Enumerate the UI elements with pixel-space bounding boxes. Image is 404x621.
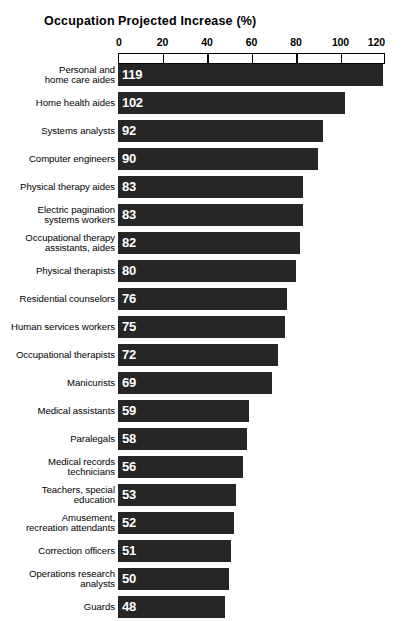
x-axis-tick-mark (341, 54, 342, 63)
category-label: Teachers, specialeducation (0, 484, 115, 506)
category-label: Electric paginationsystems workers (0, 204, 115, 226)
category-label: Systems analysts (0, 120, 115, 142)
bar: 90 (118, 148, 318, 170)
x-axis-tick-label: 120 (368, 36, 385, 48)
bar-value-label: 69 (122, 375, 136, 391)
category-label-line: technicians (68, 467, 115, 478)
x-axis-tick-label: 40 (201, 36, 212, 48)
bar-value-label: 51 (122, 543, 136, 559)
bar-row: 48 (118, 596, 385, 618)
bar-row: 76 (118, 288, 385, 310)
category-label: Occupational therapyassistants, aides (0, 232, 115, 254)
category-label: Guards (0, 596, 115, 618)
x-axis-tick-mark (252, 54, 253, 63)
bar-value-label: 90 (122, 151, 136, 167)
bar-row: 83 (118, 176, 385, 198)
category-label-line: systems workers (44, 215, 115, 226)
category-label: Physical therapists (0, 260, 115, 282)
category-label-line: Manicurists (67, 378, 115, 389)
x-axis-scale-band (118, 53, 385, 64)
bar-value-label: 76 (122, 291, 136, 307)
category-label-line: Guards (84, 602, 115, 613)
bar-row: 72 (118, 344, 385, 366)
chart-header: Occupation Projected Increase (%) (0, 14, 404, 34)
x-axis-tick-mark (296, 54, 297, 63)
bar-row: 83 (118, 204, 385, 226)
bar-value-label: 50 (122, 571, 136, 587)
x-axis-tick-label: 80 (290, 36, 301, 48)
bar: 82 (118, 232, 300, 254)
bar-value-label: 75 (122, 319, 136, 335)
bar: 92 (118, 120, 323, 142)
category-label: Personal andhome care aides (0, 64, 115, 86)
category-label-line: Medical assistants (38, 406, 115, 417)
bar-value-label: 48 (122, 599, 136, 615)
bar-row: 56 (118, 456, 385, 478)
x-axis-tick-label: 100 (332, 36, 349, 48)
bar-value-label: 52 (122, 515, 136, 531)
bar-value-label: 92 (122, 123, 136, 139)
x-axis-tick-labels: 020406080100120 (118, 36, 385, 50)
category-label: Medical assistants (0, 400, 115, 422)
category-label: Paralegals (0, 428, 115, 450)
category-label-line: Physical therapists (36, 266, 115, 277)
bar-row: 69 (118, 372, 385, 394)
bar-row: 52 (118, 512, 385, 534)
category-label: Human services workers (0, 316, 115, 338)
bar-row: 58 (118, 428, 385, 450)
bar-value-label: 80 (122, 263, 136, 279)
x-axis-tick-mark (163, 54, 164, 63)
x-axis-tick-label: 20 (157, 36, 168, 48)
category-label-line: education (74, 495, 115, 506)
bar-row: 59 (118, 400, 385, 422)
bar: 53 (118, 484, 236, 506)
category-label-line: recreation attendants (26, 523, 115, 534)
bar: 72 (118, 344, 278, 366)
x-axis-tick-mark (207, 54, 208, 63)
category-label-line: Residential counselors (20, 294, 115, 305)
bar: 80 (118, 260, 296, 282)
category-label: Physical therapy aides (0, 176, 115, 198)
category-label-line: Physical therapy aides (20, 182, 115, 193)
bar-value-label: 59 (122, 403, 136, 419)
bar: 75 (118, 316, 285, 338)
category-label-line: home care aides (45, 75, 115, 86)
bar: 83 (118, 176, 303, 198)
bar-value-label: 83 (122, 179, 136, 195)
bar: 48 (118, 596, 225, 618)
category-label-line: Home health aides (36, 98, 115, 109)
bar: 119 (118, 64, 383, 86)
x-axis-tick-label: 0 (116, 36, 122, 48)
category-label: Operations researchanalysts (0, 568, 115, 590)
category-label: Correction officers (0, 540, 115, 562)
chart-title: Projected Increase (%) (118, 14, 256, 28)
bar-value-label: 102 (122, 95, 143, 111)
bar: 52 (118, 512, 234, 534)
bar-row: 80 (118, 260, 385, 282)
bar-row: 119 (118, 64, 385, 86)
category-label-line: Occupational therapists (16, 350, 115, 361)
bar-row: 75 (118, 316, 385, 338)
plot-area: 1191029290838382807675726959585653525150… (118, 64, 385, 621)
bar-row: 53 (118, 484, 385, 506)
category-label-line: Computer engineers (29, 154, 115, 165)
bar: 76 (118, 288, 287, 310)
category-label: Medical recordstechnicians (0, 456, 115, 478)
x-axis-tick-label: 60 (246, 36, 257, 48)
bar-value-label: 72 (122, 347, 136, 363)
bar: 59 (118, 400, 249, 422)
category-label: Occupational therapists (0, 344, 115, 366)
category-label-line: Systems analysts (41, 126, 115, 137)
bar-value-label: 119 (122, 67, 142, 83)
bar: 56 (118, 456, 243, 478)
bar-chart: Occupation Projected Increase (%) 020406… (0, 0, 404, 621)
bar-row: 90 (118, 148, 385, 170)
bar-value-label: 56 (122, 459, 136, 475)
category-label: Home health aides (0, 92, 115, 114)
bar: 102 (118, 92, 345, 114)
category-label-line: Paralegals (70, 434, 115, 445)
bar-row: 92 (118, 120, 385, 142)
bar-row: 50 (118, 568, 385, 590)
bar: 58 (118, 428, 247, 450)
category-label: Amusement,recreation attendants (0, 512, 115, 534)
